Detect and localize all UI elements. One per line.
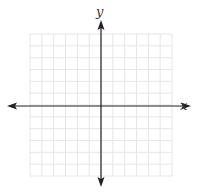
coordinate-plane: x y: [0, 0, 203, 192]
x-axis-label: x: [180, 98, 188, 113]
axes: [7, 20, 191, 187]
y-axis-label: y: [95, 4, 104, 19]
